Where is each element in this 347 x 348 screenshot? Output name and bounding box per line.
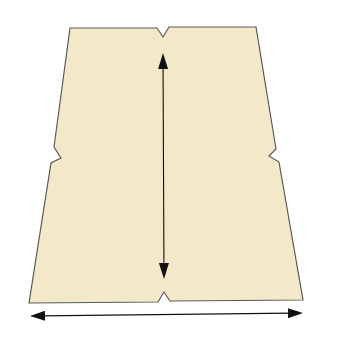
pattern-svg <box>0 0 347 348</box>
pattern-diagram: Skirt pattern piece <box>0 0 347 348</box>
